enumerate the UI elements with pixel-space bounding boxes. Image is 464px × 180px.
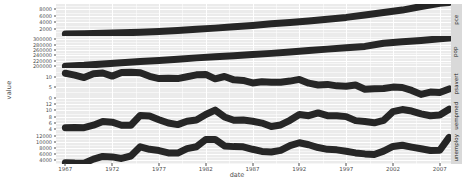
facet-strip-label: pce [454,15,460,25]
y-tick-label: 10 [46,74,52,79]
panel-bg-unemploy [56,132,451,164]
y-tick-label: 4000 [39,20,52,25]
facet-strip-label: pop [454,47,460,57]
facet-strip-label: psavert [454,74,460,95]
y-tick-label: 8000 [39,7,52,12]
facet-strip-label: uempmed [454,102,460,130]
x-axis: 196719721977198219871992199720022007 [56,163,451,171]
panel-bg-psavert [56,68,451,100]
facet-unemploy: 1200010000800060004000unemploy [14,132,462,164]
panel-pce [56,4,451,36]
panel-psavert [56,68,451,100]
panel-unemploy [56,132,451,164]
facet-strip-uempmed: uempmed [451,100,462,132]
facet-psavert: 1050psavert [14,68,462,100]
facet-uempmed: 1210864uempmed [14,100,462,132]
facet-stack: 8000600040002000pce300000280000260000240… [14,4,462,164]
y-axis-pop: 300000280000260000240000220000200000 [14,36,56,68]
y-tick-label: 6000 [39,13,52,18]
y-axis-unemploy: 1200010000800060004000 [14,132,56,164]
y-axis-psavert: 1050 [14,68,56,100]
panel-pop [56,36,451,68]
y-axis-title-text: value [5,81,13,100]
x-axis-title-text: date [230,171,245,179]
panel-bg-pop [56,36,451,68]
series-pop [56,36,451,68]
y-tick-label: 4000 [39,157,52,162]
facet-strip-pce: pce [451,4,462,36]
panel-bg-pce [56,4,451,36]
y-tick-label: 5 [49,85,52,90]
facet-strip-label: unemploy [454,134,460,161]
y-tick-label: 4 [49,126,52,131]
x-axis-title: date [0,171,464,179]
panel-uempmed [56,100,451,132]
panel-bg-uempmed [56,100,451,132]
facet-strip-pop: pop [451,36,462,68]
y-axis-pce: 8000600040002000 [14,4,56,36]
chart-root: value 8000600040002000pce300000280000260… [0,0,464,180]
y-axis-uempmed: 1210864 [14,100,56,132]
facet-pop: 300000280000260000240000220000200000pop [14,36,462,68]
series-unemploy [56,132,451,164]
series-psavert [56,68,451,100]
facet-pce: 8000600040002000pce [14,4,462,36]
series-pce [56,4,451,36]
series-uempmed [56,100,451,132]
facet-strip-psavert: psavert [451,68,462,100]
facet-strip-unemploy: unemploy [451,132,462,164]
y-tick-label: 2000 [39,27,52,32]
